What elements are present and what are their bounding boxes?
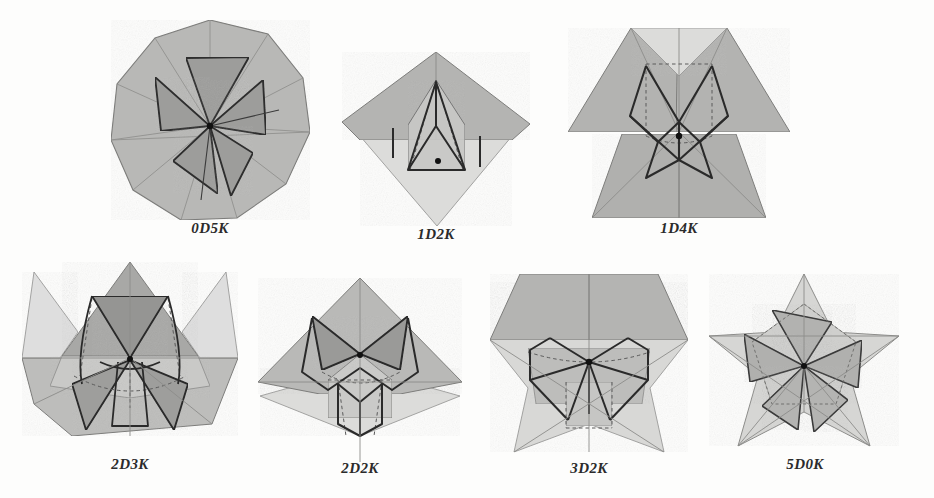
apex-dot xyxy=(127,356,133,362)
panel-2d3k-drawing xyxy=(14,258,246,458)
panel-1d4k: 1D4K xyxy=(564,12,794,264)
figure-root: 0D5K xyxy=(0,0,934,498)
panel-0d5k-drawing xyxy=(103,14,317,234)
panel-label-5d0k: 5D0K xyxy=(700,456,910,473)
panel-1d4k-drawing xyxy=(564,12,794,236)
panel-3d2k-drawing xyxy=(482,262,696,462)
panel-1d2k-drawing xyxy=(330,30,542,235)
panel-5d0k: 5D0K xyxy=(700,270,910,478)
panel-label-1d2k: 1D2K xyxy=(330,226,542,243)
panel-label-2d3k: 2D3K xyxy=(14,456,246,473)
apex-dot xyxy=(801,363,807,369)
panel-label-0d5k: 0D5K xyxy=(103,220,317,237)
apex-dot xyxy=(357,352,363,358)
panel-label-1d4k: 1D4K xyxy=(564,220,794,237)
apex-dot xyxy=(435,158,441,164)
panel-label-3d2k: 3D2K xyxy=(482,460,696,477)
apex-dot xyxy=(676,133,682,139)
panel-label-2d2k: 2D2K xyxy=(250,460,470,477)
panel-2d2k: 2D2K xyxy=(250,272,470,480)
apex-dot xyxy=(586,359,592,365)
panel-0d5k: 0D5K xyxy=(103,14,317,264)
panel-5d0k-drawing xyxy=(700,270,910,460)
panel-2d2k-drawing xyxy=(250,272,470,462)
panel-1d2k: 1D2K xyxy=(330,30,542,264)
panel-3d2k: 3D2K xyxy=(482,262,696,478)
panel-2d3k: 2D3K xyxy=(14,258,246,480)
apex-dot xyxy=(207,123,213,129)
